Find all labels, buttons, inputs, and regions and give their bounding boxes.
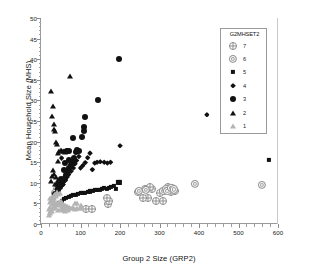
legend-entry-2[interactable]: 2 bbox=[221, 106, 268, 119]
data-point bbox=[51, 127, 57, 132]
x-axis-title: Group 2 Size (GRP2) bbox=[40, 254, 278, 263]
x-tick-major bbox=[81, 224, 82, 228]
data-point bbox=[81, 191, 85, 195]
data-point bbox=[78, 203, 84, 208]
data-point bbox=[67, 73, 73, 78]
data-point bbox=[163, 185, 171, 193]
data-point bbox=[60, 182, 66, 188]
data-point bbox=[48, 89, 54, 94]
data-point bbox=[85, 155, 91, 161]
y-tick-minor bbox=[39, 76, 42, 77]
data-point bbox=[59, 200, 65, 205]
data-point bbox=[52, 204, 58, 209]
data-point bbox=[58, 147, 64, 152]
filled-triangle-icon bbox=[230, 110, 236, 115]
data-point bbox=[156, 189, 164, 197]
y-tick-label: 50 bbox=[23, 15, 37, 22]
data-point bbox=[62, 205, 68, 210]
legend-entry-label: 5 bbox=[243, 69, 246, 75]
y-tick-minor bbox=[39, 150, 42, 151]
data-point bbox=[49, 194, 55, 199]
data-point bbox=[167, 188, 175, 196]
data-point bbox=[56, 199, 62, 204]
data-point bbox=[55, 182, 61, 188]
double-circle-icon bbox=[229, 55, 237, 63]
legend-entry-label: 4 bbox=[243, 83, 246, 89]
legend-entry-label: 2 bbox=[243, 110, 246, 116]
x-tick-label: 0 bbox=[31, 229, 51, 236]
plot-frame-right bbox=[277, 18, 278, 224]
y-tick-label: 45 bbox=[23, 35, 37, 42]
data-point bbox=[70, 158, 76, 164]
data-point bbox=[88, 205, 96, 213]
data-point bbox=[68, 162, 74, 168]
data-point bbox=[79, 134, 85, 140]
legend-entry-7[interactable]: 7 bbox=[221, 39, 268, 52]
data-point bbox=[55, 158, 61, 163]
data-point bbox=[64, 148, 70, 154]
data-point bbox=[54, 184, 60, 189]
y-tick-minor bbox=[39, 30, 42, 31]
data-point bbox=[64, 203, 70, 208]
crossed-circle-icon bbox=[229, 42, 237, 50]
data-point bbox=[104, 187, 108, 191]
x-tick-minor bbox=[144, 224, 145, 227]
data-point bbox=[54, 189, 60, 194]
data-point bbox=[267, 158, 271, 162]
y-tick-minor bbox=[39, 125, 42, 126]
y-tick-major bbox=[37, 142, 41, 143]
x-tick-label: 600 bbox=[268, 229, 288, 236]
data-point bbox=[160, 187, 168, 195]
y-tick-minor bbox=[39, 212, 42, 213]
filled-square-icon bbox=[231, 70, 235, 74]
x-tick-label: 100 bbox=[71, 229, 91, 236]
data-point bbox=[50, 197, 56, 202]
y-tick-minor bbox=[39, 199, 42, 200]
data-point bbox=[66, 172, 72, 178]
data-point bbox=[53, 193, 59, 198]
data-point bbox=[53, 139, 59, 144]
data-point bbox=[50, 206, 56, 211]
x-tick-minor bbox=[57, 224, 58, 227]
data-point bbox=[55, 192, 61, 197]
legend-entry-3[interactable]: 3 bbox=[221, 93, 268, 106]
data-point bbox=[51, 195, 57, 200]
y-tick-minor bbox=[39, 133, 42, 134]
data-point bbox=[90, 167, 96, 173]
data-point bbox=[59, 203, 65, 208]
x-tick-minor bbox=[231, 224, 232, 227]
data-point bbox=[102, 186, 106, 190]
data-point bbox=[47, 204, 53, 209]
data-point bbox=[166, 186, 174, 194]
y-tick-minor bbox=[39, 109, 42, 110]
legend-entry-6[interactable]: 6 bbox=[221, 52, 268, 65]
legend-entry-1[interactable]: 1 bbox=[221, 119, 268, 132]
x-tick-minor bbox=[136, 224, 137, 227]
data-point bbox=[134, 188, 142, 196]
x-tick-label: 500 bbox=[229, 229, 249, 236]
data-point bbox=[60, 207, 66, 212]
data-point bbox=[51, 193, 57, 198]
data-point bbox=[73, 149, 79, 155]
data-point bbox=[105, 160, 111, 166]
data-point bbox=[47, 199, 53, 204]
data-point bbox=[78, 191, 82, 195]
data-point bbox=[57, 190, 63, 195]
y-tick-label: 0 bbox=[23, 221, 37, 228]
data-point bbox=[76, 148, 82, 154]
legend-entry-4[interactable]: 4 bbox=[221, 79, 268, 92]
data-point bbox=[70, 204, 76, 209]
data-point bbox=[171, 187, 179, 195]
y-tick-minor bbox=[39, 113, 42, 114]
y-tick-label: 40 bbox=[23, 56, 37, 63]
data-point bbox=[82, 160, 88, 166]
legend-entry-label: 7 bbox=[243, 43, 246, 49]
filled-diamond-icon bbox=[230, 83, 236, 89]
y-tick-minor bbox=[39, 187, 42, 188]
data-point bbox=[67, 205, 73, 210]
legend-entry-5[interactable]: 5 bbox=[221, 66, 268, 79]
data-point bbox=[57, 201, 63, 206]
data-point bbox=[107, 186, 111, 190]
data-point bbox=[169, 185, 177, 193]
data-point bbox=[65, 207, 71, 212]
